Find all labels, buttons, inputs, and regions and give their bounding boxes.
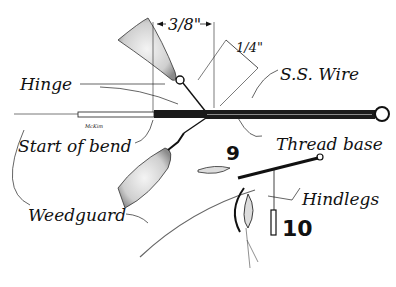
label-hinge: Hinge [19, 74, 72, 94]
label-thread-base: Thread base [276, 134, 383, 154]
dim-one-quarter: 1/4" [236, 40, 263, 55]
signature: McKim [84, 123, 103, 129]
lower-foot-paddle [118, 118, 206, 208]
frog-hindleg-diagram: 3/8" 1/4" Hinge Start of bend Weedguard … [0, 0, 396, 287]
figure-number-10: 10 [282, 216, 313, 241]
label-start-of-bend: Start of bend [18, 136, 132, 156]
figure-number-9: 9 [226, 141, 240, 165]
wire-shank [14, 107, 389, 121]
label-hindlegs: Hindlegs [301, 189, 379, 209]
dim-three-eighths: 3/8" [168, 15, 201, 34]
label-weedguard: Weedguard [28, 205, 126, 225]
figure-10-sketch [198, 154, 323, 268]
label-ss-wire: S.S. Wire [280, 64, 359, 84]
